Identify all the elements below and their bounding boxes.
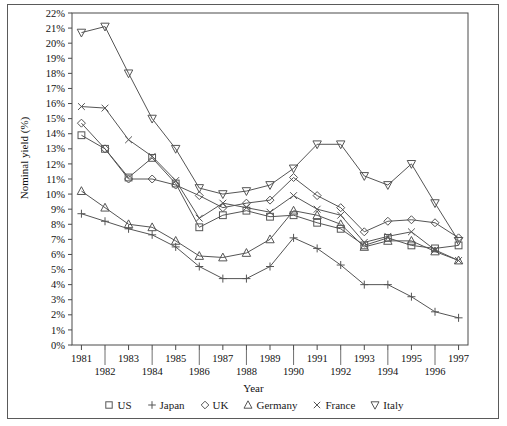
svg-text:1993: 1993 (354, 353, 375, 364)
svg-text:1981: 1981 (71, 353, 92, 364)
svg-text:11%: 11% (46, 174, 65, 185)
svg-text:6%: 6% (51, 249, 65, 260)
legend-label: UK (213, 399, 229, 411)
svg-text:1991: 1991 (307, 353, 328, 364)
line-chart-plot: 0%1%2%3%4%5%6%7%8%9%10%11%12%13%14%15%16… (0, 0, 507, 426)
svg-text:22%: 22% (46, 8, 66, 19)
chart-figure: 0%1%2%3%4%5%6%7%8%9%10%11%12%13%14%15%16… (0, 0, 507, 426)
svg-text:1982: 1982 (95, 366, 116, 377)
svg-text:1%: 1% (51, 325, 65, 336)
data-series-group (77, 23, 463, 322)
legend-label: Germany (256, 399, 297, 411)
svg-text:1988: 1988 (236, 366, 257, 377)
svg-text:10%: 10% (46, 189, 66, 200)
svg-text:1990: 1990 (283, 366, 304, 377)
chart-legend: USJapanUKGermanyFranceItaly (0, 398, 507, 411)
svg-text:1983: 1983 (118, 353, 139, 364)
series-us (78, 132, 462, 252)
legend-item-uk[interactable]: UK (199, 399, 229, 411)
svg-text:1995: 1995 (401, 353, 422, 364)
svg-text:13%: 13% (46, 143, 66, 154)
svg-text:9%: 9% (51, 204, 65, 215)
y-axis-label: Nominal yield (%) (18, 103, 30, 213)
series-germany (77, 187, 463, 264)
svg-text:1987: 1987 (212, 353, 233, 364)
svg-text:12%: 12% (46, 159, 66, 170)
svg-text:3%: 3% (51, 294, 65, 305)
square-marker-icon (103, 399, 115, 411)
series-japan (77, 210, 462, 322)
x-axis-label: Year (0, 382, 507, 394)
legend-item-japan[interactable]: Japan (146, 399, 185, 411)
legend-item-france[interactable]: France (311, 399, 355, 411)
diamond-marker-icon (199, 399, 211, 411)
svg-text:0%: 0% (51, 340, 65, 351)
legend-label: US (117, 399, 131, 411)
y-axis-ticks: 0%1%2%3%4%5%6%7%8%9%10%11%12%13%14%15%16… (46, 8, 72, 351)
svg-text:15%: 15% (46, 113, 66, 124)
svg-text:14%: 14% (46, 128, 66, 139)
svg-text:16%: 16% (46, 98, 66, 109)
svg-text:1986: 1986 (189, 366, 210, 377)
svg-text:1997: 1997 (448, 353, 469, 364)
svg-text:20%: 20% (46, 38, 66, 49)
svg-text:1985: 1985 (165, 353, 186, 364)
svg-text:18%: 18% (46, 68, 66, 79)
legend-item-italy[interactable]: Italy (369, 399, 403, 411)
svg-text:4%: 4% (51, 279, 65, 290)
svg-text:1984: 1984 (142, 366, 164, 377)
legend-label: France (325, 399, 355, 411)
triangle-down-marker-icon (369, 399, 381, 411)
legend-item-germany[interactable]: Germany (242, 399, 297, 411)
svg-text:5%: 5% (51, 264, 65, 275)
svg-text:7%: 7% (51, 234, 65, 245)
cross-marker-icon (311, 399, 323, 411)
legend-label: Japan (160, 399, 185, 411)
svg-text:1989: 1989 (260, 353, 281, 364)
svg-text:19%: 19% (46, 53, 66, 64)
svg-text:21%: 21% (46, 23, 66, 34)
svg-text:8%: 8% (51, 219, 65, 230)
svg-text:2%: 2% (51, 309, 65, 320)
svg-text:1996: 1996 (425, 366, 446, 377)
svg-text:1992: 1992 (330, 366, 351, 377)
x-axis-ticks: 1981198219831984198519861987198819891990… (71, 345, 469, 377)
series-uk (77, 119, 462, 242)
triangle-up-marker-icon (242, 399, 254, 411)
svg-text:1994: 1994 (377, 366, 399, 377)
svg-text:17%: 17% (46, 83, 66, 94)
legend-item-us[interactable]: US (103, 399, 131, 411)
plus-marker-icon (146, 399, 158, 411)
legend-label: Italy (383, 399, 403, 411)
